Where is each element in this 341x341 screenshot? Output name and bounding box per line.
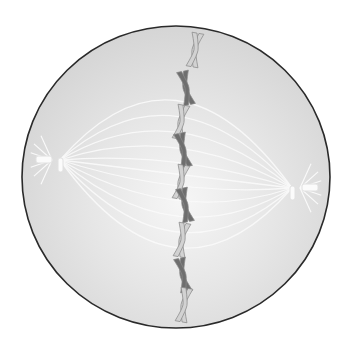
metaphase-cell-diagram — [0, 0, 341, 341]
cell-illustration — [0, 0, 341, 341]
